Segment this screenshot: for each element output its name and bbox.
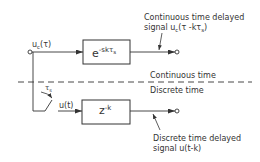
discrete-time-label: Discrete time xyxy=(150,86,204,95)
continuous-output-label-line2: signal uc(τ -kτs) xyxy=(144,23,207,33)
continuous-time-label: Continuous time xyxy=(150,71,216,80)
discrete-output-label-line2: signal u(t-k) xyxy=(153,144,201,153)
continuous-output-pointer xyxy=(159,33,162,50)
discrete-signal-label: u(t) xyxy=(59,101,73,110)
discrete-output-pointer xyxy=(153,114,160,130)
sampling-period-label: τs xyxy=(45,84,52,93)
discrete-output-terminal xyxy=(175,109,179,113)
diagram-canvas: uc(τ) e-skτs Continuous time delayed sig… xyxy=(0,0,260,162)
continuous-output-label-line1: Continuous time delayed xyxy=(144,13,244,22)
block-diagram: uc(τ) e-skτs Continuous time delayed sig… xyxy=(0,0,260,162)
input-terminal xyxy=(28,50,32,54)
input-label: uc(τ) xyxy=(32,40,51,50)
sampler-switch xyxy=(45,100,52,111)
continuous-output-terminal xyxy=(175,50,179,54)
discrete-output-label-line1: Discrete time delayed xyxy=(153,134,241,143)
